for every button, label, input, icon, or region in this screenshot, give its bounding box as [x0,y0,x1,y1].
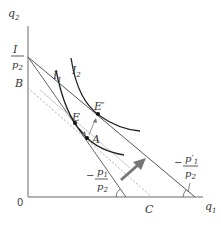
slope-new-denominator: p2 [185,168,196,181]
angle-arc-original [116,189,120,197]
slope-original-prefix: − [86,170,94,181]
point-a-label: A [91,133,100,146]
intercept-denominator: p2 [12,59,23,72]
slope-original-denominator: p2 [97,181,108,194]
intercept-numerator: I [12,43,18,56]
slope-pointer [188,183,190,192]
point-e-prime-label: E′ [93,100,105,113]
slope-new-prefix: − [174,157,182,168]
indifference-curve-i2 [71,58,140,131]
curve-i2-label: I2 [71,64,81,79]
parallel-budget-line [40,90,130,168]
curve-i1-label: I1 [52,69,62,84]
slope-new-numerator: p′1 [185,153,198,166]
angle-arc-new [183,190,186,197]
y-axis-label: q2 [8,7,20,22]
point-c-label: C [145,203,154,216]
shift-arrow [121,164,139,180]
point-b-label: B [14,77,23,90]
budget-constraint-diagram: q2 q1 0 I p2 B C I1 I2 E E′ A − p1 p2 − … [0,0,221,228]
x-axis-label: q1 [205,200,217,215]
point-e-label: E [71,111,80,124]
point-a [85,136,89,140]
origin-label: 0 [17,197,23,208]
income-arrowhead-icon [93,118,97,123]
